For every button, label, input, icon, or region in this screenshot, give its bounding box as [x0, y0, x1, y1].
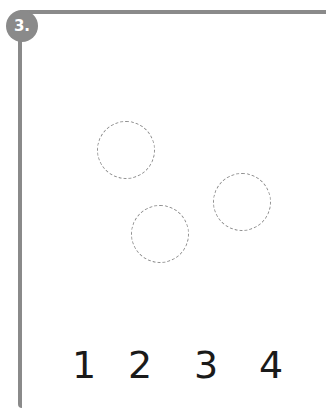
exercise-number-badge: 3. — [6, 10, 38, 42]
answer-option-4[interactable]: 4 — [259, 340, 283, 390]
dashed-circle-2 — [131, 205, 189, 263]
answer-option-2[interactable]: 2 — [128, 340, 152, 390]
dashed-circle-3 — [213, 173, 271, 231]
frame-top-border — [20, 10, 326, 14]
answer-option-3[interactable]: 3 — [194, 340, 218, 390]
dashed-circle-1 — [97, 121, 155, 179]
answer-options: 1 2 3 4 — [0, 340, 326, 390]
answer-option-1[interactable]: 1 — [72, 340, 96, 390]
